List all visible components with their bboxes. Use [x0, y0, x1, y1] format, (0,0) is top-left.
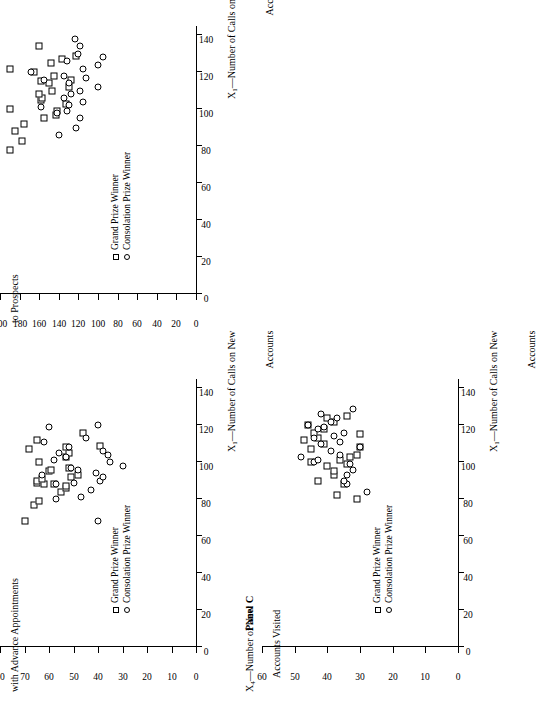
data-point-grand-prize	[6, 106, 13, 113]
data-point-consolation-prize	[68, 464, 75, 471]
circle-marker-icon	[124, 254, 130, 260]
data-point-consolation-prize	[38, 472, 45, 479]
legend-item-consolation-prize: Consolation Prize Winner	[384, 505, 396, 613]
panel-c: X4—Number of New Accounts Visited Panel …	[262, 375, 512, 705]
legend-label-consolation-prize: Consolation Prize Winner	[384, 505, 396, 603]
data-point-consolation-prize	[75, 466, 82, 473]
legend-item-consolation-prize: Consolation Prize Winner	[122, 152, 134, 260]
panel-a: X2—Percentage of Calls with Advance Appo…	[0, 375, 250, 705]
data-point-consolation-prize	[107, 459, 114, 466]
data-point-grand-prize	[18, 137, 25, 144]
data-point-consolation-prize	[41, 438, 48, 445]
data-point-consolation-prize	[99, 54, 106, 61]
data-point-consolation-prize	[72, 35, 79, 42]
x-tick-label: 140	[199, 35, 213, 46]
data-point-consolation-prize	[92, 470, 99, 477]
panel-a-legend: Grand Prize Winner Consolation Prize Win…	[110, 505, 133, 613]
y-tick-mark	[98, 294, 99, 300]
data-point-consolation-prize	[77, 87, 84, 94]
data-point-consolation-prize	[65, 80, 72, 87]
data-point-grand-prize	[324, 462, 331, 469]
y-tick-mark	[172, 647, 173, 653]
legend-label-grand-prize: Grand Prize Winner	[110, 527, 122, 603]
data-point-consolation-prize	[95, 84, 102, 91]
data-point-grand-prize	[26, 446, 33, 453]
legend-label-consolation-prize: Consolation Prize Winner	[122, 152, 134, 250]
x-tick-label: 0	[204, 294, 209, 305]
data-point-grand-prize	[50, 72, 57, 79]
x-tick-label: 120	[199, 72, 213, 83]
square-marker-icon	[375, 607, 381, 613]
data-point-consolation-prize	[28, 69, 35, 76]
y-tick-mark	[137, 294, 138, 300]
x-tick-label: 20	[201, 257, 211, 268]
data-point-consolation-prize	[82, 435, 89, 442]
data-point-consolation-prize	[327, 448, 334, 455]
panel-c-x-axis-subscript: 1	[493, 441, 501, 445]
x-tick-label: 20	[201, 610, 211, 621]
data-point-consolation-prize	[95, 422, 102, 429]
panel-c-x-axis-line	[458, 379, 459, 647]
data-point-grand-prize	[36, 91, 43, 98]
x-tick-mark	[196, 646, 202, 647]
data-point-consolation-prize	[83, 74, 90, 81]
legend-item-grand-prize: Grand Prize Winner	[110, 152, 122, 260]
x-tick-mark	[196, 293, 202, 294]
data-point-consolation-prize	[67, 91, 74, 98]
legend-item-consolation-prize: Consolation Prize Winner	[122, 505, 134, 613]
y-tick-mark	[59, 294, 60, 300]
y-tick-mark	[39, 294, 40, 300]
data-point-grand-prize	[36, 498, 43, 505]
y-tick-mark	[20, 294, 21, 300]
x-tick-label: 80	[463, 499, 473, 510]
x-tick-label: 60	[201, 183, 211, 194]
data-point-grand-prize	[353, 451, 360, 458]
y-tick-mark	[360, 647, 361, 653]
data-point-consolation-prize	[65, 102, 72, 109]
data-point-consolation-prize	[350, 405, 357, 412]
data-point-consolation-prize	[63, 58, 70, 65]
data-point-consolation-prize	[343, 472, 350, 479]
data-point-consolation-prize	[73, 124, 80, 131]
y-tick-mark	[98, 647, 99, 653]
legend-item-grand-prize: Grand Prize Winner	[372, 505, 384, 613]
y-tick-mark	[78, 294, 79, 300]
panel-b-x-axis-title: X1—Number of Calls on New Accounts	[214, 0, 299, 114]
data-point-grand-prize	[47, 59, 54, 66]
legend-label-grand-prize: Grand Prize Winner	[110, 174, 122, 250]
data-point-consolation-prize	[80, 98, 87, 105]
data-point-consolation-prize	[330, 433, 337, 440]
x-tick-label: 80	[201, 499, 211, 510]
data-point-consolation-prize	[87, 486, 94, 493]
panel-b: X3—Telephone Calls Made to Prospects Pan…	[0, 22, 250, 352]
panel-b-x-axis-line	[196, 26, 197, 294]
y-tick-mark	[196, 294, 197, 300]
y-tick-mark	[157, 294, 158, 300]
data-point-consolation-prize	[321, 424, 328, 431]
y-tick-mark	[458, 647, 459, 653]
x-tick-label: 40	[463, 573, 473, 584]
data-point-consolation-prize	[53, 496, 60, 503]
data-point-consolation-prize	[95, 518, 102, 525]
data-point-consolation-prize	[55, 449, 62, 456]
panel-c-y-axis-symbol: X	[244, 685, 255, 692]
data-point-consolation-prize	[347, 461, 354, 468]
data-point-consolation-prize	[337, 451, 344, 458]
x-tick-label: 120	[461, 425, 475, 436]
x-tick-mark	[458, 646, 464, 647]
square-marker-icon	[113, 607, 119, 613]
x-tick-label: 20	[463, 610, 473, 621]
data-point-consolation-prize	[311, 435, 318, 442]
panel-b-plot-area	[0, 26, 196, 294]
legend-label-grand-prize: Grand Prize Winner	[372, 527, 384, 603]
panel-a-x-axis-subscript: 1	[231, 441, 239, 445]
data-point-grand-prize	[343, 412, 350, 419]
data-point-consolation-prize	[60, 95, 67, 102]
panel-c-plot-area	[262, 379, 458, 647]
legend-label-consolation-prize: Consolation Prize Winner	[122, 505, 134, 603]
data-point-consolation-prize	[63, 453, 70, 460]
data-point-grand-prize	[21, 518, 28, 525]
x-tick-label: 40	[201, 220, 211, 231]
panel-c-x-axis-title-line1: —Number of Calls on New	[488, 331, 499, 442]
y-tick-label: 200	[0, 320, 23, 330]
